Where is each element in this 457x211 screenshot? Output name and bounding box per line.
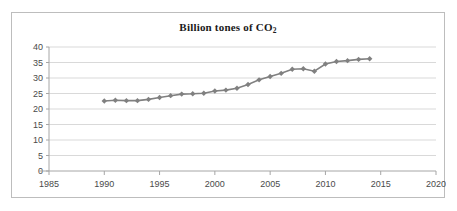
data-point-marker bbox=[135, 98, 140, 103]
data-point-marker bbox=[234, 86, 239, 91]
data-point-marker bbox=[223, 87, 228, 92]
x-axis-tick-label: 1985 bbox=[39, 179, 59, 189]
y-axis-tick-label: 25 bbox=[33, 89, 43, 99]
chart-plot-area: 0510152025303540 19851990199520002005201… bbox=[12, 13, 446, 199]
y-axis-tick-label: 40 bbox=[33, 42, 43, 52]
x-axis-tick-label: 2015 bbox=[371, 179, 391, 189]
data-point-marker bbox=[334, 59, 339, 64]
data-point-marker bbox=[279, 71, 284, 76]
data-point-marker bbox=[102, 98, 107, 103]
chart-figure: Billion tones of CO2 0510152025303540 19… bbox=[11, 12, 445, 198]
data-series-line bbox=[104, 59, 369, 101]
data-point-marker bbox=[290, 67, 295, 72]
x-axis-tick-label: 2020 bbox=[426, 179, 446, 189]
data-point-marker bbox=[124, 98, 129, 103]
data-point-marker bbox=[146, 97, 151, 102]
x-axis-tick-label: 1990 bbox=[94, 179, 114, 189]
y-axis-tick-label: 35 bbox=[33, 58, 43, 68]
y-axis-labels-group: 0510152025303540 bbox=[33, 42, 43, 176]
data-point-marker bbox=[367, 56, 372, 61]
x-axis-tick-label: 2000 bbox=[205, 179, 225, 189]
y-axis-tick-label: 15 bbox=[33, 120, 43, 130]
y-axis-tick-label: 20 bbox=[33, 104, 43, 114]
x-axis-tick-label: 1995 bbox=[150, 179, 170, 189]
data-point-marker bbox=[301, 66, 306, 71]
data-point-marker bbox=[190, 91, 195, 96]
data-point-marker bbox=[201, 90, 206, 95]
x-axis-tick-label: 2005 bbox=[260, 179, 280, 189]
data-point-marker bbox=[245, 82, 250, 87]
y-axis-tick-label: 5 bbox=[38, 151, 43, 161]
data-point-marker bbox=[212, 88, 217, 93]
x-axis-ticks-group bbox=[49, 171, 436, 175]
y-axis-tick-label: 30 bbox=[33, 73, 43, 83]
data-point-marker bbox=[179, 91, 184, 96]
x-axis-labels-group: 19851990199520002005201020152020 bbox=[39, 179, 446, 189]
x-axis-tick-label: 2010 bbox=[315, 179, 335, 189]
data-point-marker bbox=[356, 57, 361, 62]
data-point-marker bbox=[113, 98, 118, 103]
y-axis-tick-label: 10 bbox=[33, 135, 43, 145]
data-point-marker bbox=[157, 95, 162, 100]
